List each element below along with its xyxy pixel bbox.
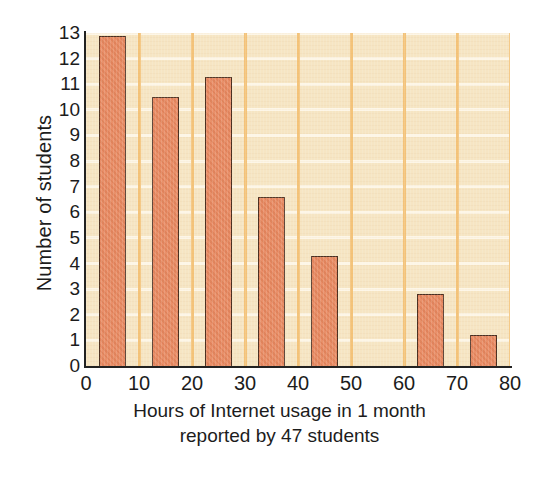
x-axis-caption: Hours of Internet usage in 1 month repor… bbox=[0, 398, 559, 448]
y-axis-line bbox=[84, 31, 86, 368]
vertical-gridline bbox=[403, 33, 406, 366]
bar-3 bbox=[205, 77, 232, 366]
y-tick-11: 11 bbox=[46, 74, 80, 93]
plot-area bbox=[86, 33, 510, 366]
x-axis-tick-labels: 01020304050607080 bbox=[86, 372, 510, 400]
y-tick-5: 5 bbox=[46, 228, 80, 247]
bar-2 bbox=[152, 97, 179, 366]
x-tick-80: 80 bbox=[488, 372, 532, 394]
x-tick-20: 20 bbox=[170, 372, 214, 394]
y-tick-1: 1 bbox=[46, 330, 80, 349]
y-tick-12: 12 bbox=[46, 49, 80, 68]
y-tick-6: 6 bbox=[46, 202, 80, 221]
vertical-gridline bbox=[297, 33, 300, 366]
y-tick-13: 13 bbox=[46, 23, 80, 42]
bar-7 bbox=[470, 335, 497, 366]
bar-4 bbox=[258, 197, 285, 366]
vertical-gridline bbox=[191, 33, 194, 366]
x-tick-50: 50 bbox=[329, 372, 373, 394]
vertical-gridline bbox=[350, 33, 353, 366]
caption-line-2: reported by 47 students bbox=[0, 423, 559, 448]
bar-6 bbox=[417, 294, 444, 366]
y-axis-tick-labels: 012345678910111213 bbox=[42, 33, 80, 366]
vertical-gridline bbox=[138, 33, 141, 366]
x-tick-30: 30 bbox=[223, 372, 267, 394]
y-tick-10: 10 bbox=[46, 100, 80, 119]
y-tick-8: 8 bbox=[46, 151, 80, 170]
x-axis-line bbox=[84, 366, 512, 368]
x-tick-60: 60 bbox=[382, 372, 426, 394]
vertical-gridline bbox=[456, 33, 459, 366]
x-tick-0: 0 bbox=[64, 372, 108, 394]
y-tick-7: 7 bbox=[46, 177, 80, 196]
y-tick-3: 3 bbox=[46, 279, 80, 298]
x-tick-70: 70 bbox=[435, 372, 479, 394]
vertical-gridline bbox=[244, 33, 247, 366]
y-tick-9: 9 bbox=[46, 125, 80, 144]
bar-5 bbox=[311, 256, 338, 366]
y-tick-2: 2 bbox=[46, 305, 80, 324]
caption-line-1: Hours of Internet usage in 1 month bbox=[0, 398, 559, 423]
x-tick-10: 10 bbox=[117, 372, 161, 394]
x-tick-40: 40 bbox=[276, 372, 320, 394]
vertical-gridline bbox=[509, 33, 511, 366]
histogram-figure: Number of students 012345678910111213 01… bbox=[0, 0, 559, 478]
bar-1 bbox=[99, 36, 126, 366]
y-tick-4: 4 bbox=[46, 254, 80, 273]
